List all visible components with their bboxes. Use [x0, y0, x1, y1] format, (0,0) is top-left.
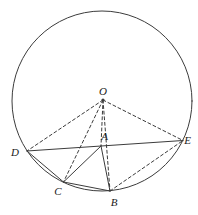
point-label-A: A: [100, 130, 108, 142]
center-dot: [101, 98, 104, 101]
geometry-figure: OABCDE: [0, 0, 198, 215]
radius-OC: [64, 100, 104, 182]
radius-OD: [27, 100, 103, 151]
point-label-E: E: [183, 134, 191, 146]
point-label-C: C: [54, 185, 62, 197]
radius-OE: [103, 100, 183, 141]
chord-DC: [27, 151, 64, 182]
chord-BE: [110, 141, 183, 192]
geometry-svg: OABCDE: [0, 0, 198, 215]
segment-AC: [64, 146, 102, 182]
chord-DE: [27, 141, 183, 152]
point-label-O: O: [99, 85, 107, 97]
point-label-D: D: [10, 146, 19, 158]
point-label-B: B: [111, 196, 118, 208]
